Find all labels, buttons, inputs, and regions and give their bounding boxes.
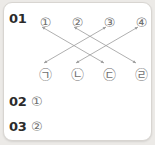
matching-bottom-option-3[interactable]: ㉢ [102, 67, 117, 82]
matching-top-option-2[interactable]: ② [70, 15, 85, 30]
matching-top-option-1[interactable]: ① [38, 15, 53, 30]
answer-card: 01 ① ② ③ ④ ㉠ ㉡ ㉢ ㉣ 02 ① 03 ② [3, 2, 152, 141]
question-03-number: 03 [9, 120, 26, 133]
matching-line[interactable] [76, 27, 138, 63]
question-02-number: 02 [9, 95, 26, 108]
matching-top-option-3[interactable]: ③ [102, 15, 117, 30]
matching-line[interactable] [42, 27, 104, 63]
question-02-answer[interactable]: ① [31, 95, 43, 108]
matching-bottom-option-4[interactable]: ㉣ [134, 67, 149, 82]
matching-line[interactable] [44, 27, 106, 63]
matching-bottom-option-1[interactable]: ㉠ [38, 67, 53, 82]
matching-line[interactable] [74, 27, 136, 63]
matching-top-option-4[interactable]: ④ [134, 15, 149, 30]
matching-bottom-option-2[interactable]: ㉡ [70, 67, 85, 82]
question-03-answer[interactable]: ② [31, 120, 43, 133]
